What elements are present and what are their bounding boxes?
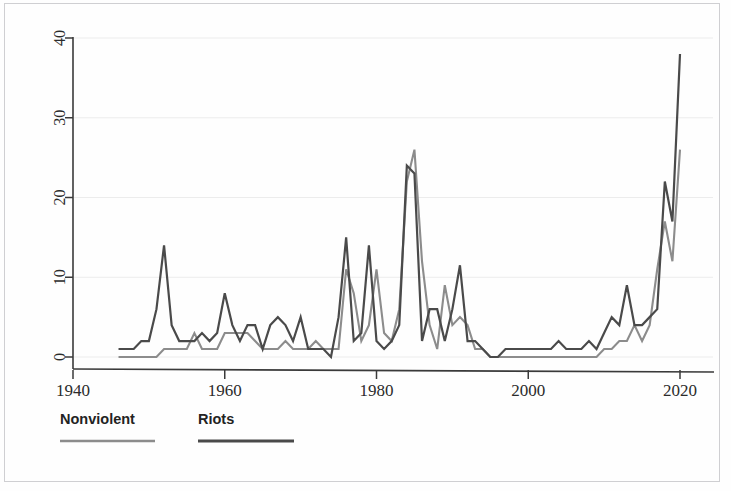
legend-label-riots: Riots [198, 411, 234, 427]
y-tick-label-40: 40 [51, 30, 68, 46]
x-tick-label-1940: 1940 [56, 381, 90, 400]
x-axis-line [73, 369, 714, 372]
line-chart: 010203040 19401960198020002020 Nonviolen… [0, 0, 731, 491]
x-tick-label-2020: 2020 [663, 381, 697, 400]
y-axis-tick-labels: 010203040 [51, 30, 68, 361]
x-tick-label-1960: 1960 [208, 381, 242, 400]
x-tick-label-1980: 1980 [360, 381, 394, 400]
plot-area: 010203040 19401960198020002020 Nonviolen… [0, 0, 731, 491]
y-tick-label-10: 10 [51, 269, 68, 285]
y-tick-label-20: 20 [51, 190, 68, 206]
y-tick-label-30: 30 [51, 110, 68, 126]
x-axis-tick-labels: 19401960198020002020 [56, 381, 697, 400]
y-tick-label-0: 0 [51, 353, 68, 361]
chart-legend: NonviolentRiots [60, 411, 294, 441]
data-series-group [119, 54, 680, 357]
axes [73, 37, 714, 372]
series-line-riots [119, 54, 680, 357]
x-tick-label-2000: 2000 [511, 381, 545, 400]
chart-figure: 010203040 19401960198020002020 Nonviolen… [0, 0, 731, 491]
legend-label-nonviolent: Nonviolent [60, 411, 135, 427]
